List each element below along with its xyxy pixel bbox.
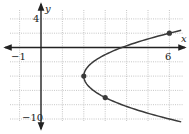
y-axis-label: y (44, 3, 51, 14)
data-point (167, 31, 172, 36)
data-point (103, 95, 108, 100)
x-tick-min-label: −1 (11, 51, 26, 62)
data-point (81, 74, 86, 79)
y-tick-min-label: −10 (22, 112, 43, 123)
grid-lines (10, 10, 183, 122)
x-tick-max-label: 6 (165, 51, 171, 62)
x-axis-label: x (181, 33, 187, 44)
y-tick-max-label: 4 (33, 13, 39, 24)
parabola-graph: x y −1 6 4 −10 (0, 0, 189, 134)
